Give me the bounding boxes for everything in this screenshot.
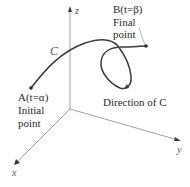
direction-caption: Direction of C	[103, 96, 167, 108]
point-a-caption-line1: Initial	[18, 104, 44, 116]
direction-arrowhead	[124, 84, 129, 89]
z-axis-label: z	[75, 5, 79, 17]
y-axis	[70, 109, 178, 140]
point-a-caption-line2: point	[18, 117, 41, 129]
y-axis-label: y	[177, 144, 181, 156]
y-axis-arrowhead	[174, 137, 181, 141]
z-axis-arrowhead	[68, 6, 72, 12]
point-b-label: B(t=β)	[113, 3, 143, 15]
point-b-leader	[139, 28, 145, 45]
point-b-caption-line1: Final	[113, 16, 136, 28]
point-a-label: A(t=α)	[18, 91, 48, 103]
point-a-dot	[29, 86, 33, 90]
curve-label: C	[50, 45, 58, 57]
curve-c	[31, 40, 146, 89]
x-axis-label: x	[12, 167, 16, 179]
point-b-caption-line2: point	[113, 28, 136, 40]
